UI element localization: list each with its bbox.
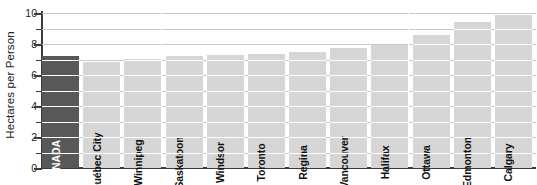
gridline-segment <box>495 153 532 154</box>
gridline-segment <box>166 44 203 45</box>
gridline-segment <box>454 137 491 138</box>
gridline-segment <box>454 106 491 107</box>
gridline-segment <box>495 60 532 61</box>
bar-category-label: CANADA <box>50 140 61 185</box>
gridline-segment <box>495 91 532 92</box>
gridline-segment <box>532 91 536 92</box>
gridline-segment <box>532 137 536 138</box>
gridline-segment <box>207 60 244 61</box>
gridline-segment <box>454 122 491 123</box>
gridline-segment <box>248 29 285 30</box>
gridline-segment <box>454 60 491 61</box>
gridline-segment <box>124 91 161 92</box>
gridline-segment <box>413 13 450 14</box>
gridline-segment <box>532 60 536 61</box>
gridline-segment <box>289 60 326 61</box>
gridline-segment <box>248 137 285 138</box>
gridline-segment <box>207 91 244 92</box>
gridline-segment <box>454 44 491 45</box>
gridline-segment <box>83 60 120 61</box>
gridline-segment <box>330 91 367 92</box>
y-tick-mark <box>34 75 42 77</box>
gridline-segment <box>248 106 285 107</box>
gridline-segment <box>330 106 367 107</box>
gridline-segment <box>248 122 285 123</box>
gridline-segment <box>371 29 408 30</box>
gridline-segment <box>330 44 367 45</box>
gridline-segment <box>413 75 450 76</box>
gridline-segment <box>124 60 161 61</box>
gridline-segment <box>166 60 203 61</box>
bar-category-label: Regina <box>297 145 308 179</box>
gridline-segment <box>495 137 532 138</box>
bar-vancouver: Vancouver <box>330 48 367 168</box>
gridline-segment <box>207 106 244 107</box>
gridline-segment <box>330 13 367 14</box>
gridline-segment <box>124 153 161 154</box>
bar-category-label: Vancouver <box>338 136 349 185</box>
bar-category-label: Halifax <box>379 145 390 179</box>
gridline-segment <box>42 60 79 61</box>
gridline-segment <box>371 91 408 92</box>
gridline-segment <box>495 75 532 76</box>
gridline-segment <box>330 60 367 61</box>
gridline-segment <box>124 13 161 14</box>
gridline-segment <box>166 122 203 123</box>
gridline-segment <box>42 122 79 123</box>
gridline-segment <box>166 75 203 76</box>
gridline-segment <box>124 106 161 107</box>
gridline-segment <box>166 91 203 92</box>
gridline-segment <box>42 106 79 107</box>
gridline-segment <box>248 153 285 154</box>
gridline-segment <box>207 122 244 123</box>
gridline-segment <box>454 75 491 76</box>
gridline-segment <box>166 13 203 14</box>
gridline-segment <box>330 29 367 30</box>
gridline-segment <box>289 75 326 76</box>
gridline-segment <box>42 44 79 45</box>
gridline-segment <box>495 106 532 107</box>
gridline-segment <box>83 75 120 76</box>
bar-category-label: Saskatoon <box>174 136 185 185</box>
bar-windsor: Windsor <box>207 55 244 168</box>
gridline-segment <box>371 44 408 45</box>
gridline-segment <box>42 13 79 14</box>
gridline-segment <box>289 29 326 30</box>
gridline-segment <box>207 75 244 76</box>
gridline-segment <box>289 137 326 138</box>
y-tick-mark <box>34 168 42 170</box>
gridline-segment <box>42 137 79 138</box>
gridline-segment <box>371 153 408 154</box>
gridline-segment <box>371 137 408 138</box>
gridline-segment <box>371 60 408 61</box>
gridline-segment <box>166 153 203 154</box>
gridline-segment <box>371 106 408 107</box>
gridline-segment <box>289 106 326 107</box>
y-tick-mark <box>34 44 42 46</box>
bar-ottawa: Ottawa <box>413 35 450 168</box>
gridline-segment <box>371 75 408 76</box>
gridline-segment <box>124 44 161 45</box>
gridline-segment <box>83 137 120 138</box>
gridline-segment <box>248 60 285 61</box>
bar-saskatoon: Saskatoon <box>166 56 203 168</box>
gridline-segment <box>454 91 491 92</box>
bar-category-label: Edmonton <box>462 136 473 185</box>
gridline-segment <box>413 122 450 123</box>
gridline-segment <box>532 75 536 76</box>
gridline-segment <box>532 122 536 123</box>
gridline-segment <box>207 29 244 30</box>
y-tick-mark <box>34 13 42 15</box>
gridline-segment <box>289 13 326 14</box>
gridline-segment <box>166 106 203 107</box>
gridline-segment <box>207 153 244 154</box>
gridline-segment <box>83 29 120 30</box>
gridline-segment <box>248 44 285 45</box>
bar-category-label: Toronto <box>256 143 267 181</box>
bar-toronto: Toronto <box>248 54 285 168</box>
gridline-segment <box>413 44 450 45</box>
gridline-segment <box>248 75 285 76</box>
gridline-segment <box>83 106 120 107</box>
gridline-segment <box>413 153 450 154</box>
gridline-segment <box>495 122 532 123</box>
